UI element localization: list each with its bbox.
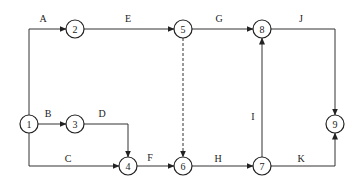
- edge-label-b: B: [45, 108, 52, 119]
- edge-label-a: A: [39, 13, 47, 24]
- node-1: 1: [20, 115, 38, 133]
- node-6: 6: [174, 157, 192, 175]
- edge-label-c: C: [65, 153, 72, 164]
- svg-text:3: 3: [73, 119, 78, 130]
- svg-text:2: 2: [73, 24, 78, 35]
- edge-label-j: J: [299, 13, 303, 24]
- node-9: 9: [326, 115, 344, 133]
- edge-label-d: D: [98, 108, 105, 119]
- edge-label-k: K: [297, 153, 305, 164]
- node-3: 3: [66, 115, 84, 133]
- edge-d: [84, 124, 128, 157]
- edge-label-i: I: [251, 111, 254, 122]
- svg-text:9: 9: [333, 119, 338, 130]
- edge-label-g: G: [215, 13, 222, 24]
- node-2: 2: [66, 20, 84, 38]
- svg-text:6: 6: [181, 161, 186, 172]
- svg-text:8: 8: [260, 24, 265, 35]
- edge-label-f: F: [147, 152, 153, 163]
- edge-a: [29, 29, 66, 115]
- svg-text:7: 7: [260, 161, 265, 172]
- edge-label-e: E: [125, 13, 131, 24]
- svg-text:5: 5: [181, 24, 186, 35]
- node-5: 5: [174, 20, 192, 38]
- svg-text:4: 4: [126, 161, 131, 172]
- svg-text:1: 1: [27, 119, 32, 130]
- node-4: 4: [119, 157, 137, 175]
- edge-c: [29, 133, 119, 166]
- edge-label-h: H: [214, 153, 221, 164]
- edge-j: [271, 29, 335, 115]
- network-diagram: A B C D E F G H I J K 1 2 3 4: [0, 0, 362, 188]
- node-8: 8: [253, 20, 271, 38]
- node-7: 7: [253, 157, 271, 175]
